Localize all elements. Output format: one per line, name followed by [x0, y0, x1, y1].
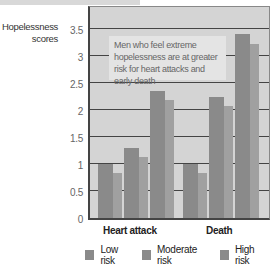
bar-shadow: [113, 173, 122, 218]
y-axis-label-line1: Hopelessness: [2, 21, 58, 33]
legend-label: Moderate risk: [157, 244, 210, 264]
bar-shadow: [224, 106, 233, 218]
bar-high-risk: [150, 91, 165, 218]
category-label-death: Death: [206, 225, 232, 236]
y-tick-label: 3: [58, 53, 83, 63]
y-tick-label: 1.5: [58, 134, 83, 144]
top-border: [0, 0, 140, 5]
y-tick-label: 1: [58, 161, 83, 171]
y-tick-label: 0.5: [58, 188, 83, 198]
category-label-heart-attack: Heart attack: [103, 225, 157, 236]
annotation-box: Men who feel extreme hopelessness are at…: [109, 36, 226, 80]
y-tick-label: 2.5: [58, 80, 83, 90]
bar-shadow: [250, 44, 259, 218]
legend-swatch-icon: [220, 250, 229, 260]
legend-item-low-risk: Low risk: [85, 244, 133, 264]
legend: Low risk Moderate risk High risk: [85, 244, 278, 264]
bar-moderate-risk: [124, 148, 139, 218]
y-axis-label-line2: scores: [2, 33, 58, 45]
gridline: [90, 28, 269, 29]
bar-shadow: [198, 173, 207, 218]
bar-low-risk: [98, 164, 113, 218]
bar-shadow: [139, 157, 148, 218]
bar-low-risk: [183, 164, 198, 218]
legend-item-moderate-risk: Moderate risk: [142, 244, 211, 264]
y-axis-label: Hopelessness scores: [2, 21, 58, 45]
legend-swatch-icon: [85, 250, 94, 260]
bar-moderate-risk: [209, 97, 224, 219]
y-tick-label: 2: [58, 107, 83, 117]
legend-swatch-icon: [142, 250, 151, 260]
legend-label: Low risk: [100, 244, 132, 264]
bar-shadow: [165, 100, 174, 218]
legend-item-high-risk: High risk: [220, 244, 269, 264]
legend-label: High risk: [235, 244, 269, 264]
y-tick-label: 3.5: [58, 26, 83, 36]
bar-high-risk: [235, 34, 250, 218]
y-tick-label: 0: [58, 215, 83, 225]
